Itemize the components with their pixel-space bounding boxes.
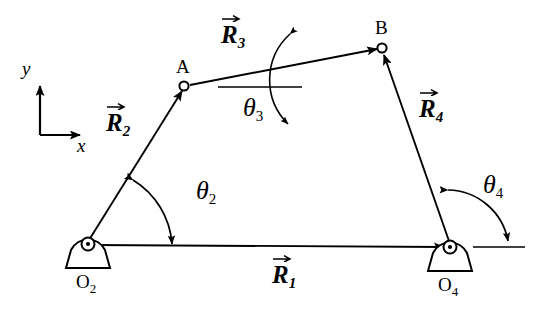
angle-arc-theta2 [133, 180, 172, 244]
link-R3 [190, 49, 377, 85]
angle-label-theta3-sub: 3 [256, 108, 264, 124]
vector-label-R1-sub: 1 [289, 275, 297, 291]
vector-R4-line [384, 55, 449, 241]
vector-label-R3: R3 [221, 22, 245, 51]
vector-label-R4-text: R [419, 95, 436, 122]
x-axis-label: x [77, 136, 85, 155]
y-axis-label: y [22, 59, 30, 78]
joint-A [179, 81, 188, 90]
vector-label-R3-glyph: R [221, 22, 238, 47]
linkage-diagram-svg [0, 0, 540, 316]
joint-label-B: B [375, 18, 388, 37]
angle-label-theta2: θ2 [196, 178, 216, 207]
vector-label-R1: R1 [272, 262, 296, 291]
vector-label-R3-text: R [221, 21, 238, 48]
ground-pivot-O2 [66, 238, 110, 269]
angle-label-theta4: θ4 [483, 172, 503, 201]
pivot-label-O2: O2 [76, 272, 96, 295]
vector-arrow-overbar-icon [419, 87, 439, 96]
coordinate-axes [40, 86, 80, 135]
vector-label-R4: R4 [419, 96, 443, 125]
angle-label-theta4-text: θ [483, 170, 496, 199]
vector-label-R2-glyph: R [106, 110, 123, 135]
joint-label-A: A [176, 57, 190, 76]
vector-label-R2: R2 [106, 110, 130, 139]
vector-label-R3-sub: 3 [238, 35, 246, 51]
pivot-label-O4-text: O [438, 274, 452, 295]
link-R4 [384, 55, 449, 241]
link-R1 [92, 245, 444, 247]
angle-arc-theta3 [270, 34, 290, 124]
vector-arrow-overbar-icon [221, 13, 241, 22]
pivot-label-O4: O4 [438, 275, 458, 298]
angle-label-theta3-text: θ [243, 93, 256, 122]
figure-canvas: y x A B O2 O4 R1 R2 R3 R4 θ2 θ3 θ4 [0, 0, 540, 316]
vector-label-R1-text: R [272, 261, 289, 288]
angle-label-theta4-sub: 4 [496, 185, 504, 201]
vector-R2-line [89, 91, 182, 240]
pivot-label-O2-text: O [76, 271, 90, 292]
vector-R3-line [190, 49, 377, 85]
angle-label-theta2-text: θ [196, 176, 209, 205]
pivot-label-O2-sub: 2 [90, 281, 97, 296]
vector-label-R4-sub: 4 [436, 109, 444, 125]
vector-label-R1-glyph: R [272, 262, 289, 287]
ground-pivot-O4 [428, 241, 472, 272]
vector-label-R2-sub: 2 [123, 123, 131, 139]
pivot-label-O4-sub: 4 [452, 284, 459, 299]
vector-label-R2-text: R [106, 109, 123, 136]
angle-label-theta3: θ3 [243, 95, 263, 124]
link-R2 [89, 91, 182, 240]
joint-B [377, 43, 386, 52]
vector-label-R4-glyph: R [419, 96, 436, 121]
vector-R1-line [92, 245, 444, 247]
angle-label-theta2-sub: 2 [209, 191, 217, 207]
vector-arrow-overbar-icon [106, 101, 126, 110]
vector-arrow-overbar-icon [272, 253, 292, 262]
